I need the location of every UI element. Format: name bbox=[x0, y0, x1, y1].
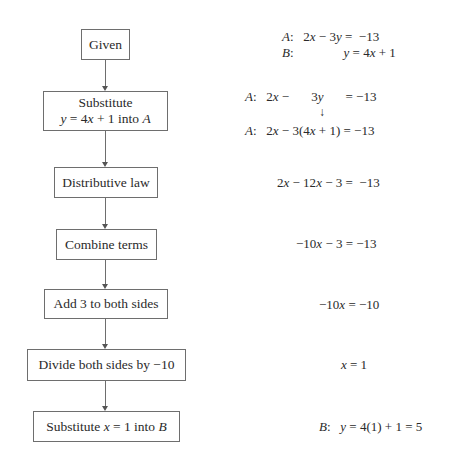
equation-final-label: B bbox=[319, 419, 327, 434]
arrowhead-icon bbox=[102, 86, 108, 91]
equation-combine: −10x − 3 = −13 bbox=[296, 236, 377, 252]
arrowhead-icon bbox=[102, 344, 108, 349]
step-combine-label: Combine terms bbox=[65, 237, 148, 253]
step-substitute-b-box: Substitute x = 1 into B bbox=[33, 411, 180, 442]
step-divide-label: Divide both sides by −10 bbox=[39, 357, 175, 373]
step-substitute-label-line1: Substitute bbox=[78, 95, 132, 111]
step-substitute-b-label: Substitute x = 1 into B bbox=[46, 419, 167, 435]
step-distributive-box: Distributive law bbox=[54, 167, 158, 198]
step-combine-box: Combine terms bbox=[56, 229, 157, 260]
equation-substitute-result: A: 2x − 3(4x + 1) = −13 bbox=[245, 123, 374, 139]
arrowhead-icon bbox=[102, 284, 108, 289]
step-divide-box: Divide both sides by −10 bbox=[27, 349, 186, 381]
equation-add: −10x = −10 bbox=[319, 297, 379, 313]
step-substitute-label-line2: y = 4x + 1 into A bbox=[60, 111, 150, 127]
connector-line bbox=[105, 260, 106, 284]
connector-line bbox=[105, 131, 106, 162]
step-distributive-label: Distributive law bbox=[62, 175, 149, 191]
equation-distributive: 2x − 12x − 3 = −13 bbox=[277, 175, 380, 191]
arrowhead-icon bbox=[102, 162, 108, 167]
connector-line bbox=[105, 198, 106, 224]
connector-line bbox=[105, 319, 106, 344]
step-add-box: Add 3 to both sides bbox=[44, 289, 168, 319]
connector-line bbox=[105, 381, 106, 406]
step-given-label: Given bbox=[89, 37, 122, 53]
step-given-box: Given bbox=[81, 29, 130, 60]
substitution-arrow-icon: ↓ bbox=[319, 106, 325, 118]
step-substitute-box: Substitute y = 4x + 1 into A bbox=[43, 91, 168, 131]
arrowhead-icon bbox=[102, 224, 108, 229]
arrowhead-icon bbox=[102, 406, 108, 411]
equation-final: B: y = 4(1) + 1 = 5 bbox=[319, 419, 422, 435]
equation-given-b: B:y = 4x + 1 bbox=[282, 45, 396, 61]
equation-given-a: A: 2x − 3y = −13 bbox=[282, 29, 379, 45]
step-add-label: Add 3 to both sides bbox=[53, 296, 158, 312]
equation-substitute-original: A: 2x −3y= −13 bbox=[245, 89, 376, 105]
equation-divide: x = 1 bbox=[341, 357, 367, 373]
connector-line bbox=[105, 60, 106, 86]
